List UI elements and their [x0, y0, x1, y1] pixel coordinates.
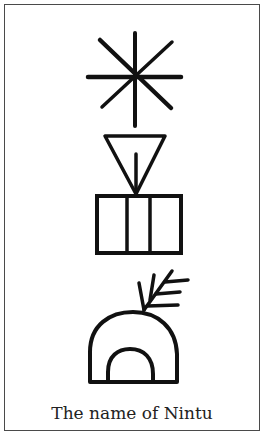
triangle-sign-icon: [105, 136, 165, 194]
star-sign-icon: [88, 33, 181, 126]
figure-caption: The name of Nintu: [0, 403, 264, 423]
arch-sign-icon: [90, 271, 188, 382]
branch-icon: [139, 271, 188, 310]
cuneiform-signs: [0, 0, 264, 433]
box-sign-icon: [97, 196, 181, 253]
